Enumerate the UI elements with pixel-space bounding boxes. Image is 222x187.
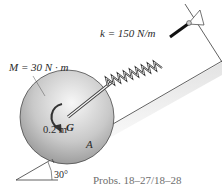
contact-point-label: A [85,138,93,150]
diagram-canvas: k = 150 N/m M = 30 N · m G 0.2 m A 30° P… [0,0,222,187]
problem-caption: Probs. 18–27/18–28 [93,174,182,186]
pin-icon [187,21,192,26]
radius-label: 0.2 m [43,124,67,135]
spring-constant-label: k = 150 N/m [100,27,155,39]
angle-label: 30° [54,169,68,180]
spring-icon [106,62,162,86]
disk [20,70,114,164]
wall-line [185,4,222,62]
center-label: G [66,121,74,133]
spring-end-rod [170,24,188,37]
moment-label: M = 30 N · m [8,61,68,73]
angle-arc [48,162,52,180]
